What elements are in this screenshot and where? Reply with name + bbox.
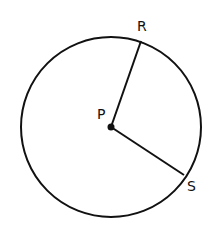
label-s: S (187, 178, 196, 194)
label-r: R (137, 18, 147, 34)
label-p: P (97, 106, 105, 122)
circle-diagram: P R S (0, 0, 213, 234)
radius-pr (111, 41, 141, 127)
radius-ps (111, 127, 184, 175)
center-point-p (108, 124, 115, 131)
